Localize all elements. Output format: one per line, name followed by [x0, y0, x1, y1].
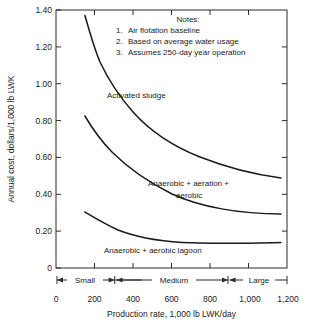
y-tick-label-6: 1.20	[35, 42, 52, 52]
curve-anaerobic-aerobic-lagoon	[85, 212, 281, 243]
curve-label-anaerobic-aeration-aerobic-line2: aerobic	[176, 191, 202, 200]
x-tick-label-4: 800	[203, 294, 217, 304]
notes-item-2-number: 2.	[116, 37, 123, 46]
segment-label-small: Small	[75, 276, 95, 285]
curve-label-anaerobic-aerobic-lagoon: Anaerobic + aerobic lagoon	[104, 246, 202, 255]
x-tick-label-5: 1,000	[239, 294, 261, 304]
y-tick-label-1: 0.20	[35, 226, 52, 236]
segment-label-large: Large	[249, 276, 270, 285]
y-tick-label-2: 0.40	[35, 189, 52, 199]
notes-heading: Notes:	[176, 15, 199, 24]
curve-label-anaerobic-aeration-aerobic-line1: Anaerobic + aeration +	[148, 179, 229, 188]
y-axis-ticks	[56, 10, 61, 268]
y-tick-label-3: 0.60	[35, 152, 52, 162]
x-tick-label-1: 200	[87, 294, 101, 304]
x-tick-label-2: 400	[126, 294, 140, 304]
figure-container: 0 0.20 0.40 0.60 0.80 1.00 1.20 1.40 0 2…	[0, 0, 312, 323]
y-tick-label-5: 1.00	[35, 79, 52, 89]
line-chart: 0 0.20 0.40 0.60 0.80 1.00 1.20 1.40 0 2…	[0, 0, 312, 323]
x-axis-title: Production rate, 1,000 lb LWK/day	[107, 309, 237, 319]
notes-item-2-text: Based on average water usage	[128, 37, 239, 46]
x-tick-label-6: 1,200	[277, 294, 299, 304]
notes-item-1-number: 1.	[116, 26, 123, 35]
notes-item-3-text: Assumes 250-day year operation	[128, 48, 245, 57]
segment-label-medium: Medium	[160, 276, 189, 285]
y-tick-label-7: 1.40	[35, 5, 52, 15]
x-axis-ticks-top	[95, 10, 249, 15]
x-axis-ticks	[95, 263, 249, 268]
y-axis-title: Annual cost, dollars/1,000 lb LWK	[6, 75, 16, 202]
y-axis-ticks-right	[282, 47, 287, 231]
notes-item-1-text: Air flotation baseline	[128, 26, 201, 35]
x-tick-label-3: 600	[164, 294, 178, 304]
y-tick-label-4: 0.80	[35, 116, 52, 126]
y-tick-label-0: 0	[47, 263, 52, 273]
curve-label-activated-sludge: Activated sludge	[107, 91, 166, 100]
notes-item-3-number: 3.	[116, 48, 123, 57]
x-tick-label-0: 0	[54, 294, 59, 304]
